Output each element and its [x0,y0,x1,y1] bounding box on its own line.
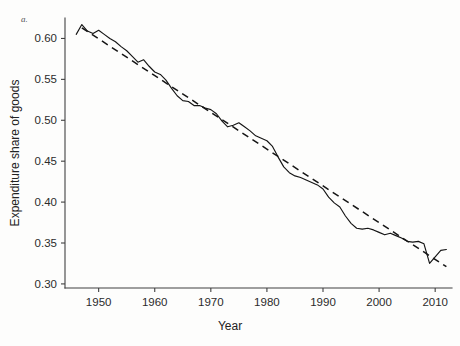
y-tick-group: 0.300.350.400.450.500.550.60 [35,32,65,289]
figure-container: a. 0.300.350.400.450.500.550.60 19501960… [0,0,460,346]
y-tick-label: 0.40 [35,196,57,208]
x-tick-label: 2000 [366,296,392,308]
y-tick-label: 0.60 [35,32,57,44]
y-tick-label: 0.55 [35,73,57,85]
x-axis: 1950196019701980199020002010 [65,288,452,308]
x-tick-label: 1950 [86,296,112,308]
x-tick-group: 1950196019701980199020002010 [86,288,448,308]
y-tick-label: 0.35 [35,237,57,249]
expenditure-share-line-chart: a. 0.300.350.400.450.500.550.60 19501960… [0,0,460,346]
x-axis-title: Year [218,319,242,333]
y-axis-title: Expenditure share of goods [8,80,22,227]
y-tick-label: 0.50 [35,114,57,126]
panel-label-group: a. [21,14,28,24]
y-axis: 0.300.350.400.450.500.550.60 [35,18,65,290]
series-line-trend [82,28,447,267]
y-tick-label: 0.30 [35,278,57,290]
x-tick-label: 1980 [254,296,280,308]
x-tick-label: 1970 [198,296,224,308]
x-tick-label: 2010 [422,296,448,308]
data-series-group [76,25,446,267]
x-tick-label: 1960 [142,296,168,308]
x-tick-label: 1990 [310,296,336,308]
panel-label: a. [21,14,28,24]
y-tick-label: 0.45 [35,155,57,167]
series-line-expenditure-share [76,25,446,264]
